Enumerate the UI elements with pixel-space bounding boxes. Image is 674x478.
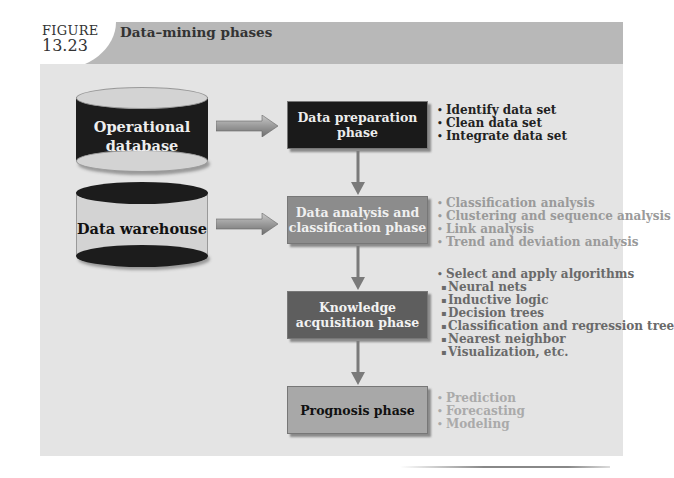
figure-title: Data–mining phases (120, 24, 272, 40)
phase-label-line1: Data analysis and (289, 205, 426, 220)
phase-label-line2: acquisition phase (296, 315, 419, 330)
cylinder-label: Operational database (76, 117, 208, 155)
cylinder-bottom (76, 245, 208, 267)
phase-label: Data preparation phase (288, 110, 427, 140)
figure-number: 13.23 (42, 37, 88, 55)
phase-label: Data analysis and classification phase (289, 205, 426, 235)
data-analysis-phase-box: Data analysis and classification phase (287, 196, 428, 244)
cylinder-label-line2: database (76, 136, 208, 155)
knowledge-acquisition-phase-box: Knowledge acquisition phase (287, 291, 428, 339)
phase-label: Knowledge acquisition phase (296, 300, 419, 330)
prognosis-steps: Prediction Forecasting Modeling (437, 392, 525, 431)
arrow-down-icon (351, 341, 365, 385)
list-item: Integrate data set (437, 130, 567, 143)
knowledge-acquisition-steps: Select and apply algorithms Neural nets … (437, 268, 674, 359)
data-warehouse-cylinder: Data warehouse (76, 182, 208, 278)
data-preparation-phase-box: Data preparation phase (287, 101, 428, 149)
phase-label-line2: classification phase (289, 220, 426, 235)
cylinder-top (76, 182, 208, 204)
operational-database-cylinder: Operational database (76, 87, 208, 183)
arrow-right-icon (216, 115, 278, 137)
arrow-down-icon (351, 246, 365, 290)
phase-label-line1: Knowledge (296, 300, 419, 315)
prognosis-phase-box: Prognosis phase (287, 386, 428, 434)
phase-label: Prognosis phase (300, 403, 415, 418)
arrow-down-icon (351, 151, 365, 195)
cylinder-label: Data warehouse (76, 220, 208, 237)
arrow-right-icon (216, 213, 278, 235)
cylinder-top (76, 87, 208, 109)
sub-list-item: Visualization, etc. (437, 346, 674, 359)
footer-rule (400, 466, 610, 468)
cylinder-label-line1: Operational (76, 117, 208, 136)
data-preparation-steps: Identify data set Clean data set Integra… (437, 104, 567, 143)
list-item: Trend and deviation analysis (437, 236, 671, 249)
data-analysis-steps: Classification analysis Clustering and s… (437, 197, 671, 249)
list-item: Modeling (437, 418, 525, 431)
